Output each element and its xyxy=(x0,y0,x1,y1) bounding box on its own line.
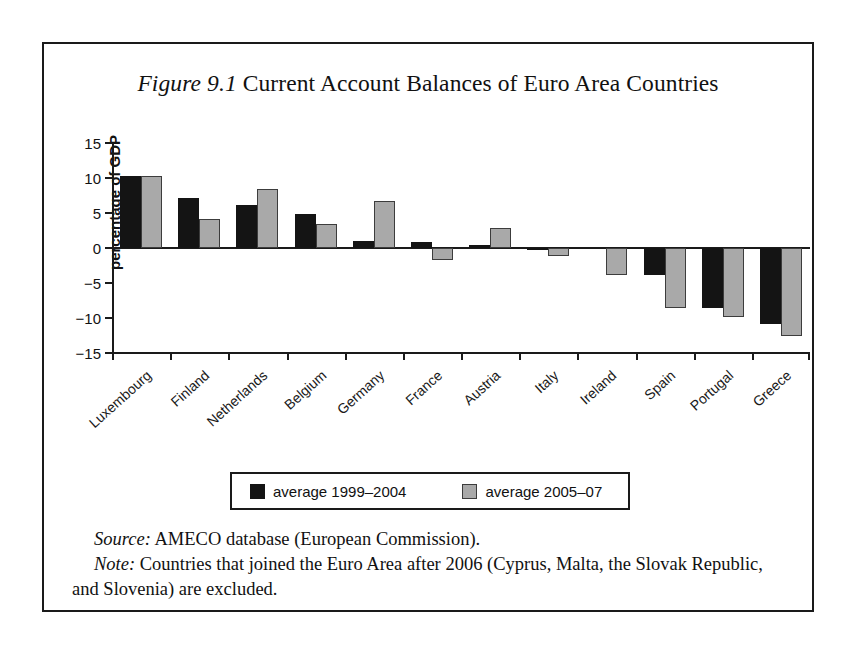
y-axis-tick-label: −5 xyxy=(61,275,101,292)
y-axis-tick-label: −10 xyxy=(61,310,101,327)
bar-portugal-series-0 xyxy=(702,248,723,308)
bar-austria-series-1 xyxy=(490,228,511,248)
bar-italy-series-1 xyxy=(548,248,569,256)
bar-italy-series-0 xyxy=(527,248,548,250)
x-axis-tick-mark xyxy=(636,352,638,360)
x-axis-tick-mark xyxy=(287,352,289,360)
y-axis-tick-mark xyxy=(105,317,112,319)
bar-greece-series-0 xyxy=(760,248,781,324)
bar-germany-series-0 xyxy=(353,241,374,248)
caption-note-text: Countries that joined the Euro Area afte… xyxy=(72,554,763,599)
bar-netherlands-series-0 xyxy=(236,205,257,248)
bar-france-series-1 xyxy=(432,248,453,260)
x-axis-tick-mark xyxy=(752,352,754,360)
x-axis-tick-mark xyxy=(519,352,521,360)
bar-finland-series-1 xyxy=(199,219,220,248)
bar-germany-series-1 xyxy=(374,201,395,248)
bar-belgium-series-1 xyxy=(316,224,337,248)
bar-finland-series-0 xyxy=(178,198,199,248)
x-axis-label-luxembourg: Luxembourg xyxy=(55,367,155,459)
bar-greece-series-1 xyxy=(781,248,802,336)
y-axis-tick-mark xyxy=(105,142,112,144)
y-axis-tick-label: 15 xyxy=(61,135,101,152)
bar-netherlands-series-1 xyxy=(257,189,278,248)
y-axis-tick-label: 5 xyxy=(61,205,101,222)
x-axis-tick-mark xyxy=(228,352,230,360)
bar-luxembourg-series-1 xyxy=(141,176,162,248)
bar-portugal-series-1 xyxy=(723,248,744,317)
bar-belgium-series-0 xyxy=(295,214,316,248)
caption-note-line: Note: Countries that joined the Euro Are… xyxy=(72,552,788,602)
caption-source-text: AMECO database (European Commission). xyxy=(151,529,480,549)
legend-entry-0: average 1999–2004 xyxy=(250,483,406,500)
bar-france-series-0 xyxy=(411,242,432,248)
legend-label-0: average 1999–2004 xyxy=(273,483,406,500)
x-axis-tick-mark xyxy=(694,352,696,360)
figure-caption: Source: AMECO database (European Commiss… xyxy=(72,527,788,601)
caption-source-line: Source: AMECO database (European Commiss… xyxy=(72,527,788,552)
y-axis-tick-mark xyxy=(105,282,112,284)
bar-austria-series-0 xyxy=(469,245,490,248)
x-axis-tick-mark xyxy=(112,352,114,360)
x-axis-tick-mark xyxy=(170,352,172,360)
bar-ireland-series-1 xyxy=(606,248,627,275)
y-axis-tick-mark xyxy=(105,177,112,179)
y-axis-tick-label: 10 xyxy=(61,170,101,187)
legend-swatch-icon-0 xyxy=(250,484,265,499)
figure-frame: Figure 9.1 Current Account Balances of E… xyxy=(42,42,814,612)
x-axis-tick-mark xyxy=(403,352,405,360)
bar-luxembourg-series-0 xyxy=(120,176,141,248)
y-axis-tick-mark xyxy=(105,212,112,214)
caption-source-lead: Source: xyxy=(94,529,151,549)
bar-spain-series-1 xyxy=(665,248,686,308)
y-axis-tick-label: 0 xyxy=(61,240,101,257)
y-axis-tick-mark xyxy=(105,352,112,354)
chart-legend: average 1999–2004average 2005–07 xyxy=(230,472,630,510)
x-axis-tick-mark xyxy=(461,352,463,360)
x-axis-tick-mark xyxy=(808,352,810,360)
legend-label-1: average 2005–07 xyxy=(485,483,602,500)
y-axis-tick-label: −15 xyxy=(61,345,101,362)
x-axis-tick-mark xyxy=(345,352,347,360)
legend-swatch-icon-1 xyxy=(462,484,477,499)
caption-note-lead: Note: xyxy=(94,554,135,574)
legend-entry-1: average 2005–07 xyxy=(462,483,602,500)
y-axis-tick-mark xyxy=(105,247,112,249)
x-axis-tick-mark xyxy=(577,352,579,360)
bar-spain-series-0 xyxy=(644,248,665,275)
